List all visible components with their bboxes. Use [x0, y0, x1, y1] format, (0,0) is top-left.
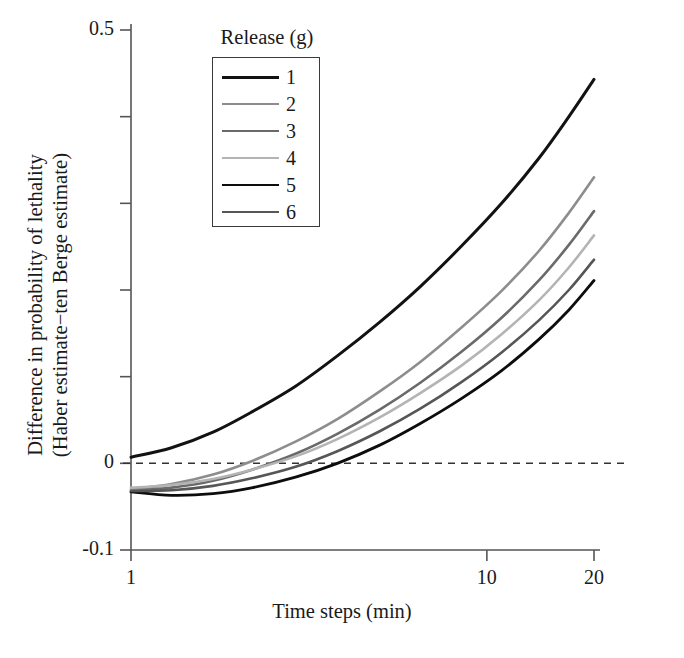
legend-swatch-5	[222, 184, 279, 186]
legend-label-4: 4	[286, 148, 296, 168]
legend-item-2[interactable]: 2	[213, 90, 321, 118]
legend-title: Release (g)	[196, 26, 338, 49]
chart-figure: Difference in probability of lethality (…	[0, 0, 684, 658]
data-curve-4	[131, 235, 594, 487]
legend-swatch-3	[222, 130, 279, 132]
legend-item-6[interactable]: 6	[213, 198, 321, 226]
legend-item-3[interactable]: 3	[213, 117, 321, 145]
x-tick-label: 20	[554, 566, 634, 589]
legend-swatch-1	[222, 76, 279, 79]
x-tick-label: 10	[447, 566, 527, 589]
y-tick-label: 0.5	[89, 17, 114, 40]
legend-swatch-2	[222, 103, 279, 105]
legend-swatch-6	[222, 211, 279, 213]
legend-item-4[interactable]: 4	[213, 144, 321, 172]
axis-lines	[131, 24, 600, 550]
y-tick-label: -0.1	[82, 537, 114, 560]
legend-swatch-4	[222, 157, 279, 159]
legend-label-5: 5	[286, 175, 296, 195]
legend-box: 123456	[212, 57, 320, 227]
legend-item-5[interactable]: 5	[213, 171, 321, 199]
x-tick-label: 1	[91, 566, 171, 589]
legend-item-1[interactable]: 1	[213, 63, 321, 91]
y-tick-label: 0	[104, 450, 114, 473]
legend-label-2: 2	[286, 94, 296, 114]
legend-label-1: 1	[286, 67, 296, 87]
legend-label-6: 6	[286, 202, 296, 222]
data-curves	[131, 79, 594, 495]
legend-label-3: 3	[286, 121, 296, 141]
